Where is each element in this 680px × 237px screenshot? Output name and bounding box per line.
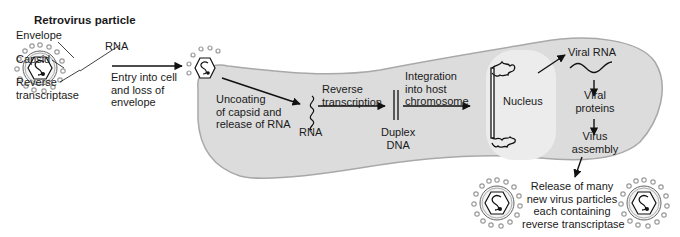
- label-line: Viral: [573, 89, 617, 102]
- label-reverse-transcriptase: Reverse transcriptase: [16, 76, 79, 101]
- step-release: Release of many new virus particles each…: [522, 180, 622, 230]
- label-envelope: Envelope: [16, 29, 62, 42]
- label-line: of capsid and: [216, 106, 291, 119]
- step-uncoating: Uncoating of capsid and release of RNA: [216, 93, 291, 131]
- label-capsid: Capsid: [16, 53, 50, 66]
- label-line: Reverse: [16, 76, 79, 89]
- label-line: envelope: [111, 96, 177, 109]
- label-line: Uncoating: [216, 93, 291, 106]
- label-line: release of RNA: [216, 118, 291, 131]
- new-virus-particle-icon: [472, 178, 522, 228]
- label-line: chromosome: [405, 95, 469, 108]
- label-line: reverse transcriptase: [522, 218, 622, 231]
- label-line: Integration: [405, 70, 469, 83]
- label-viral-rna: Viral RNA: [568, 46, 616, 59]
- label-line: transcription: [322, 96, 382, 109]
- label-line: Entry into cell: [111, 71, 177, 84]
- label-line: proteins: [573, 102, 617, 115]
- title: Retrovirus particle: [34, 14, 136, 27]
- step-viral-proteins: Viral proteins: [573, 89, 617, 114]
- label-line: transcriptase: [16, 89, 79, 102]
- label-duplex-dna: Duplex DNA: [381, 126, 415, 151]
- label-line: Reverse: [322, 83, 382, 96]
- label-line: new virus particles: [522, 193, 622, 206]
- label-line: assembly: [568, 143, 622, 156]
- label-line: DNA: [381, 139, 415, 152]
- label-rna-released: RNA: [299, 126, 322, 139]
- label-line: Release of many: [522, 180, 622, 193]
- label-nucleus: Nucleus: [503, 95, 543, 108]
- label-line: and loss of: [111, 84, 177, 97]
- label-line: each containing: [522, 205, 622, 218]
- step-virus-assembly: Virus assembly: [568, 130, 622, 155]
- new-virus-particle-icon: [619, 178, 669, 228]
- step-integration: Integration into host chromosome: [405, 70, 469, 108]
- label-line: into host: [405, 83, 469, 96]
- step-reverse-transcription: Reverse transcription: [322, 83, 382, 108]
- label-line: Duplex: [381, 126, 415, 139]
- label-line: Virus: [568, 130, 622, 143]
- label-rna: RNA: [105, 40, 128, 53]
- step-entry: Entry into cell and loss of envelope: [111, 71, 177, 109]
